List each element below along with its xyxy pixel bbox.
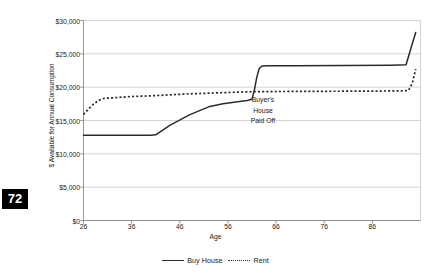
x-axis-tick-label: 76 [320,223,328,230]
x-axis-tick-label: 36 [128,223,136,230]
chart-figure: 72 $0$5,000$10,000$15,000$20,000$25,000$… [0,0,431,280]
y-axis-tick-label: $15,000 [36,117,80,124]
legend-label: Buy House [187,256,222,265]
annotation-line: Paid Off [228,116,298,127]
y-axis-tick-label: $25,000 [36,50,80,57]
y-axis-tick-label: $5,000 [36,184,80,191]
x-axis-tick-label: 66 [272,223,280,230]
chart-annotation-buyers-house-paid-off: Buyer'sHousePaid Off [228,95,298,127]
annotation-line: Buyer's [228,95,298,106]
y-axis-title: $ Available for Annual Consumption [48,31,55,201]
y-axis-tick-label: $0 [36,217,80,224]
legend-swatch-solid-icon [162,260,184,261]
x-axis-tick-label: 46 [176,223,184,230]
legend-swatch-dotted-icon [228,260,250,261]
chart-legend: Buy HouseRent [0,256,431,265]
y-axis-tick-label: $20,000 [36,84,80,91]
x-axis-tick-label: 56 [224,223,232,230]
x-axis-tick-label: 86 [369,223,377,230]
legend-entry-buy-house[interactable]: Buy House [162,256,222,265]
y-axis-tick-label: $30,000 [36,17,80,24]
y-axis-tick-label: $10,000 [36,150,80,157]
x-axis-title: Age [0,233,431,240]
legend-label: Rent [253,256,268,265]
x-axis-tick-label: 26 [80,223,88,230]
annotation-line: House [228,106,298,117]
legend-entry-rent[interactable]: Rent [228,256,268,265]
